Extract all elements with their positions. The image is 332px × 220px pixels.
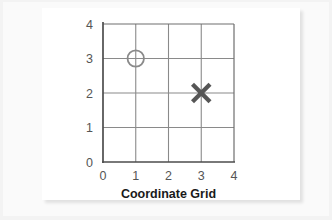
x-tick-label: 3 [198,169,205,183]
x-tick-labels: 0 1 2 3 4 [100,169,238,183]
coordinate-grid-plot: 4 3 2 1 0 0 1 2 3 4 [42,8,300,200]
x-tick-label: 2 [165,169,172,183]
x-tick-label: 1 [132,169,139,183]
figure-card: 4 3 2 1 0 0 1 2 3 4 [42,8,300,200]
y-tick-label: 1 [86,121,93,135]
scanned-page: 4 3 2 1 0 0 1 2 3 4 [0,0,332,220]
y-tick-labels: 4 3 2 1 0 [86,18,93,170]
y-tick-label: 2 [86,87,93,101]
y-tick-label: 4 [86,18,93,32]
y-tick-label: 3 [86,52,93,66]
x-tick-label: 0 [100,169,107,183]
coordinate-grid-svg: 4 3 2 1 0 0 1 2 3 4 [42,8,300,200]
chart-title: Coordinate Grid [121,187,216,200]
x-tick-label: 4 [231,169,238,183]
y-tick-label: 0 [86,156,93,170]
